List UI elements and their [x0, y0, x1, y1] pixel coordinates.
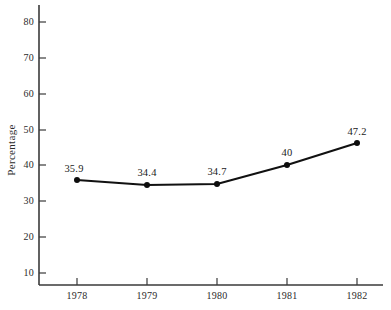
data-label-1982: 47.2 — [334, 126, 380, 137]
y-tick-label-70: 70 — [14, 52, 34, 63]
y-tick-label-60: 60 — [14, 88, 34, 99]
data-point-1980 — [214, 181, 220, 187]
data-point-1978 — [74, 177, 80, 183]
data-point-1979 — [144, 182, 150, 188]
data-point-1982 — [354, 140, 360, 146]
data-point-1981 — [284, 162, 290, 168]
y-tick-label-80: 80 — [14, 16, 34, 27]
x-tick-label-1979: 1979 — [124, 290, 170, 301]
data-label-1981: 40 — [264, 147, 310, 158]
y-tick-label-10: 10 — [14, 267, 34, 278]
data-label-1979: 34.4 — [124, 167, 170, 178]
series-markers — [74, 140, 360, 188]
y-tick-label-20: 20 — [14, 231, 34, 242]
x-tick-label-1978: 1978 — [54, 290, 100, 301]
data-label-1978: 35.9 — [51, 163, 97, 174]
series-line-percentage — [77, 143, 357, 185]
x-axis-ticks — [77, 278, 357, 285]
x-tick-label-1980: 1980 — [194, 290, 240, 301]
chart-screenshot: Percentage 80 70 60 50 40 30 20 10 1978 … — [0, 0, 391, 310]
x-tick-label-1981: 1981 — [264, 290, 310, 301]
x-tick-label-1982: 1982 — [334, 290, 380, 301]
y-tick-label-50: 50 — [14, 124, 34, 135]
y-tick-label-30: 30 — [14, 195, 34, 206]
line-chart-plot — [0, 0, 391, 310]
y-axis-ticks — [39, 22, 46, 273]
y-tick-label-40: 40 — [14, 159, 34, 170]
data-label-1980: 34.7 — [194, 166, 240, 177]
